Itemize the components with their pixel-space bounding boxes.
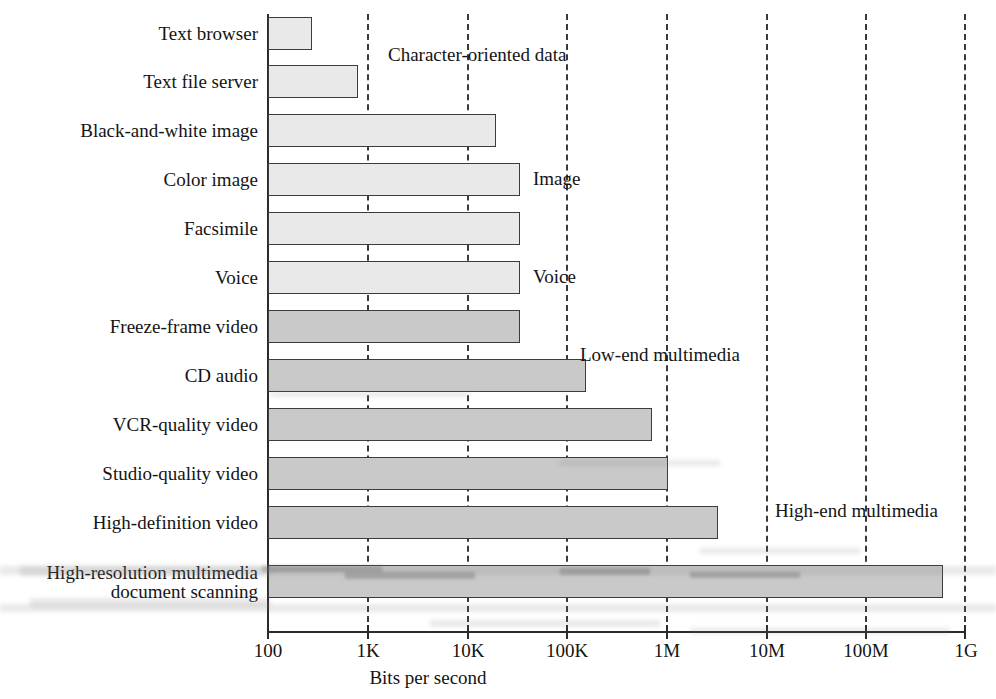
row-label: Text browser bbox=[159, 17, 258, 51]
row-label: High-definition video bbox=[93, 506, 258, 540]
tick-mark-1G bbox=[964, 625, 966, 639]
chart-row: Text file server bbox=[0, 65, 996, 99]
chart-row: Voice bbox=[0, 261, 996, 295]
chart-row: VCR-quality video bbox=[0, 408, 996, 442]
bar bbox=[268, 506, 718, 539]
bandwidth-requirements-chart: 100 1K 10K 100K 1M 10M 100M 1G Text brow… bbox=[0, 0, 996, 699]
row-label: CD audio bbox=[185, 359, 258, 393]
bar bbox=[268, 65, 358, 98]
bar bbox=[268, 114, 496, 147]
chart-row: Black-and-white image bbox=[0, 114, 996, 148]
row-label: Text file server bbox=[143, 65, 258, 99]
bar bbox=[268, 359, 586, 392]
tick-mark-100M bbox=[865, 625, 867, 639]
scan-artifact bbox=[430, 620, 660, 627]
chart-row: High-resolution multimedia document scan… bbox=[0, 565, 996, 599]
annotation-voice: Voice bbox=[533, 266, 576, 288]
x-tick-label: 100K bbox=[546, 640, 588, 662]
chart-row: Freeze-frame video bbox=[0, 310, 996, 344]
annotation-low-end-multimedia: Low-end multimedia bbox=[580, 344, 740, 366]
x-axis-title: Bits per second bbox=[0, 667, 996, 689]
bar bbox=[268, 310, 520, 343]
row-label: High-resolution multimedia document scan… bbox=[46, 563, 258, 597]
row-label: Black-and-white image bbox=[80, 114, 258, 148]
x-tick-label: 10K bbox=[452, 640, 485, 662]
row-label: Facsimile bbox=[184, 212, 258, 246]
bar bbox=[268, 565, 943, 598]
bar bbox=[268, 261, 520, 294]
tick-mark-1M bbox=[666, 625, 668, 639]
row-label: Freeze-frame video bbox=[110, 310, 258, 344]
row-label: VCR-quality video bbox=[113, 408, 258, 442]
row-label-line2: document scanning bbox=[46, 582, 258, 601]
chart-row: Facsimile bbox=[0, 212, 996, 246]
x-tick-label: 100 bbox=[254, 640, 283, 662]
chart-row: Color image bbox=[0, 163, 996, 197]
annotation-high-end-multimedia: High-end multimedia bbox=[775, 500, 938, 522]
plot-area: 100 1K 10K 100K 1M 10M 100M 1G Text brow… bbox=[0, 0, 996, 699]
x-tick-label: 100M bbox=[843, 640, 888, 662]
tick-mark-100 bbox=[267, 625, 269, 639]
row-label: Color image bbox=[164, 163, 258, 197]
x-tick-label: 1K bbox=[356, 640, 379, 662]
bar bbox=[268, 163, 520, 196]
bar bbox=[268, 17, 312, 50]
annotation-image: Image bbox=[533, 168, 580, 190]
row-label: Studio-quality video bbox=[102, 457, 258, 491]
x-axis-title-text: Bits per second bbox=[369, 667, 486, 689]
bar bbox=[268, 457, 668, 490]
row-label-line1: High-resolution multimedia bbox=[46, 563, 258, 582]
tick-mark-10M bbox=[766, 625, 768, 639]
x-axis-line bbox=[267, 631, 966, 633]
chart-row: Studio-quality video bbox=[0, 457, 996, 491]
bar bbox=[268, 212, 520, 245]
scan-artifact bbox=[700, 548, 860, 554]
chart-row: CD audio bbox=[0, 359, 996, 393]
tick-mark-10K bbox=[467, 625, 469, 639]
tick-mark-100K bbox=[566, 625, 568, 639]
x-tick-label: 1M bbox=[654, 640, 680, 662]
bar bbox=[268, 408, 652, 441]
annotation-character-oriented-data: Character-oriented data bbox=[388, 44, 566, 66]
x-tick-label: 10M bbox=[749, 640, 785, 662]
scan-artifact bbox=[0, 604, 996, 612]
tick-mark-1K bbox=[367, 625, 369, 639]
row-label: Voice bbox=[215, 261, 258, 295]
x-tick-label: 1G bbox=[954, 640, 977, 662]
